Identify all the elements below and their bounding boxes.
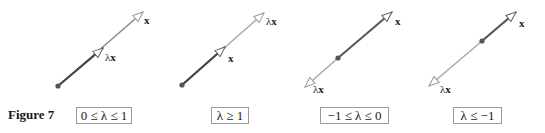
panel-3-vectors	[305, 12, 392, 87]
panel-4-x-label: x	[519, 17, 525, 29]
panel-2-x-label: x	[228, 52, 234, 64]
vector-x	[482, 12, 516, 41]
vector-lambda-x	[58, 48, 103, 86]
condition-box-1: 0 ≤ λ ≤ 1	[76, 107, 132, 124]
figure-label: Figure 7	[8, 107, 54, 123]
condition-box-2: λ ≥ 1	[211, 107, 249, 124]
panel-1-lambda-x-label: λx	[105, 51, 116, 63]
condition-box-4: λ ≤ −1	[453, 107, 502, 124]
panel-1-x-label: x	[144, 14, 150, 26]
condition-box-3: −1 ≤ λ ≤ 0	[320, 107, 389, 124]
panel-3-lambda-x-label: λx	[313, 83, 324, 95]
vector-lambda-x	[429, 41, 482, 86]
origin-point	[479, 38, 484, 43]
origin-point	[55, 83, 60, 88]
panel-2-lambda-x-label: λx	[266, 15, 277, 27]
panel-1-vectors	[55, 12, 143, 89]
panel-3-x-label: x	[395, 15, 401, 27]
panel-4-lambda-x-label: λx	[440, 83, 451, 95]
panel-4-vectors	[429, 12, 516, 86]
figure-7: x λx x λx x λx x λx Figure 7 0 ≤ λ ≤ 1 λ…	[0, 0, 545, 133]
panel-2-vectors	[179, 13, 264, 88]
origin-point	[179, 82, 184, 87]
vector-x	[182, 47, 225, 85]
origin-point	[335, 55, 340, 60]
vector-x	[338, 12, 392, 58]
